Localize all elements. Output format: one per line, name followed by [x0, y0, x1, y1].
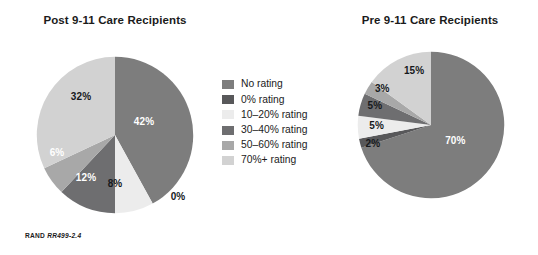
- credit-id: RR499-2.4: [47, 232, 81, 239]
- legend-swatch-icon: [222, 156, 234, 165]
- legend-label: 30–40% rating: [241, 125, 307, 135]
- pie-slice-label: 15%: [404, 64, 424, 75]
- legend-item: 70%+ rating: [222, 153, 334, 168]
- pie-slice-label: 2%: [366, 137, 381, 148]
- legend-swatch-icon: [222, 141, 234, 150]
- legend-swatch-icon: [222, 110, 234, 119]
- figure-canvas: Post 9-11 Care Recipients Pre 9-11 Care …: [0, 0, 538, 255]
- pie-slice-label: 42%: [134, 116, 154, 127]
- legend: No rating0% rating10–20% rating30–40% ra…: [222, 77, 334, 168]
- legend-label: 70%+ rating: [241, 155, 296, 165]
- pie-slice-label: 5%: [369, 120, 384, 131]
- pie-slice-label: 8%: [108, 178, 123, 189]
- chart-title-pre: Pre 9-11 Care Recipients: [330, 14, 530, 26]
- legend-swatch-icon: [222, 126, 234, 135]
- legend-label: 50–60% rating: [241, 140, 307, 150]
- pie-slice-label: 32%: [71, 91, 91, 102]
- credit-org: RAND: [25, 232, 45, 239]
- legend-item: 10–20% rating: [222, 107, 334, 122]
- legend-label: No rating: [241, 79, 283, 89]
- legend-swatch-icon: [222, 80, 234, 89]
- legend-item: 30–40% rating: [222, 123, 334, 138]
- legend-label: 0% rating: [241, 95, 285, 105]
- pie-slice-label: 12%: [76, 172, 96, 183]
- legend-item: No rating: [222, 77, 334, 92]
- pie-slice-label: 0%: [171, 191, 186, 202]
- chart-title-post: Post 9-11 Care Recipients: [0, 14, 230, 26]
- legend-item: 0% rating: [222, 92, 334, 107]
- pie-slice-label: 6%: [50, 147, 65, 158]
- legend-label: 10–20% rating: [241, 110, 307, 120]
- legend-item: 50–60% rating: [222, 138, 334, 153]
- pie-chart-post: 42%0%8%12%6%32%: [36, 56, 194, 214]
- figure-credit: RAND RR499-2.4: [25, 232, 81, 239]
- pie-slice-label: 5%: [367, 100, 382, 111]
- pie-slice-label: 70%: [445, 134, 465, 145]
- pie-chart-pre: 70%2%5%5%3%15%: [357, 51, 505, 199]
- pie-slice-label: 3%: [375, 83, 390, 94]
- legend-swatch-icon: [222, 95, 234, 104]
